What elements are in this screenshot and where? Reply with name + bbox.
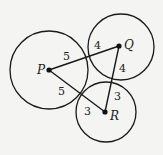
label-qr-q: 4: [119, 62, 126, 75]
label-pr-p: 5: [58, 85, 65, 98]
point-r-dot: [102, 109, 107, 114]
tangent-circles-diagram: P Q R 5 4 4 3 5 3: [0, 0, 163, 155]
label-pq-p: 5: [63, 50, 70, 63]
label-qr-r: 3: [114, 90, 121, 103]
segment-pq: [49, 46, 119, 70]
point-p-dot: [46, 67, 51, 72]
point-q-label: Q: [124, 38, 134, 52]
label-pq-q: 4: [94, 39, 101, 52]
label-pr-r: 3: [84, 105, 91, 118]
point-p-label: P: [36, 63, 46, 77]
point-r-label: R: [109, 109, 119, 123]
point-q-dot: [116, 43, 121, 48]
